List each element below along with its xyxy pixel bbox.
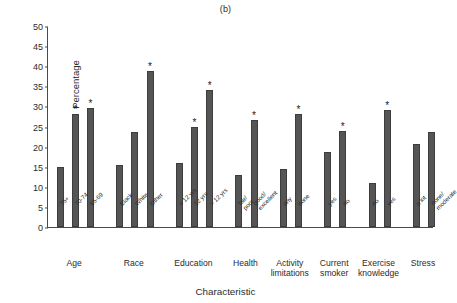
group-label: Race [124, 258, 144, 268]
bar [384, 110, 391, 227]
y-tick-mark-25 [45, 127, 48, 128]
y-tick-mark-45 [45, 47, 48, 48]
bar [131, 132, 138, 227]
group-label: Currentsmoker [320, 258, 349, 278]
y-tick-mark-5 [45, 207, 48, 208]
significance-marker: * [148, 64, 152, 70]
y-tick-mark-10 [45, 187, 48, 188]
bar [295, 114, 302, 227]
y-tick-mark-20 [45, 147, 48, 148]
significance-marker: * [192, 120, 196, 126]
bar [428, 132, 435, 227]
group-label: Health [233, 258, 258, 268]
y-tick-mark-15 [45, 167, 48, 168]
significance-marker: * [208, 83, 212, 89]
group-label: Exerciseknowledge [358, 258, 399, 278]
bar [339, 131, 346, 227]
group-label: Education [174, 258, 212, 268]
significance-marker: * [296, 107, 300, 113]
significance-marker: * [252, 113, 256, 119]
bar [176, 163, 183, 227]
group-label: Activitylimitations [271, 258, 309, 278]
group-label: Stress [411, 258, 435, 268]
y-tick-mark-0 [45, 228, 48, 229]
significance-marker: * [88, 101, 92, 107]
significance-marker: * [385, 103, 389, 109]
bar [87, 108, 94, 227]
significance-marker: * [73, 107, 77, 113]
y-tick-mark-30 [45, 107, 48, 108]
bar [324, 152, 331, 227]
bar [413, 144, 420, 227]
significance-marker: * [341, 124, 345, 130]
bar [72, 114, 79, 227]
y-tick-mark-50 [45, 27, 48, 28]
y-tick-mark-40 [45, 67, 48, 68]
bar [251, 120, 258, 227]
group-label: Age [67, 258, 82, 268]
y-tick-mark-35 [45, 87, 48, 88]
x-axis-label: Characteristic [0, 286, 451, 297]
bar [191, 127, 198, 228]
panel-title: (b) [0, 4, 451, 14]
